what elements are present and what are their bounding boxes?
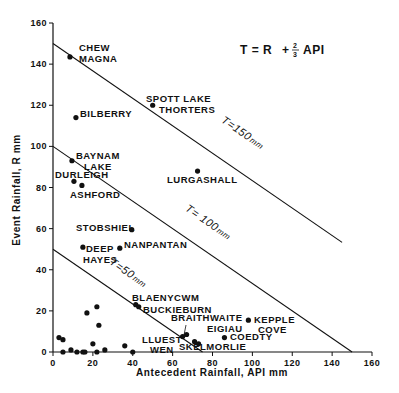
data-point bbox=[69, 158, 74, 163]
formula-numerator: 2 bbox=[293, 42, 297, 49]
data-point bbox=[195, 168, 200, 173]
formula-left: T = R bbox=[240, 43, 272, 57]
data-point bbox=[90, 341, 95, 346]
point-label: BILBERRY bbox=[80, 108, 132, 119]
y-tick-label: 80 bbox=[36, 183, 47, 193]
data-point bbox=[117, 246, 122, 251]
point-label: COVE bbox=[258, 324, 287, 335]
point-label: WEN bbox=[150, 344, 174, 355]
chart-svg: 0204060801001201401600204060801001201401… bbox=[0, 0, 399, 393]
point-label: DEEP bbox=[86, 243, 114, 254]
y-tick-label: 20 bbox=[36, 306, 47, 316]
data-point bbox=[82, 349, 87, 354]
y-tick-label: 0 bbox=[41, 347, 47, 357]
formula-right: API bbox=[303, 43, 325, 57]
data-point bbox=[79, 183, 84, 188]
data-point bbox=[96, 323, 101, 328]
x-tick-label: 0 bbox=[50, 358, 56, 368]
point-label: NANPANTAN bbox=[124, 239, 187, 250]
x-tick-label: 20 bbox=[87, 358, 98, 368]
data-point bbox=[80, 245, 85, 250]
scatter-chart: 0204060801001201401600204060801001201401… bbox=[0, 0, 399, 393]
point-label: THORTERS bbox=[159, 104, 215, 115]
point-label: CHEW bbox=[79, 42, 110, 53]
data-point bbox=[130, 349, 135, 354]
y-tick-label: 140 bbox=[30, 59, 47, 69]
data-point bbox=[60, 337, 65, 342]
point-label: BLAENYCWM bbox=[132, 292, 199, 303]
x-axis-label: Antecedent Rainfall, API mm bbox=[136, 367, 288, 378]
point-label: ASHFORD bbox=[70, 189, 120, 200]
data-point bbox=[136, 304, 141, 309]
reference-line-label: T=150mm bbox=[219, 113, 266, 151]
y-tick-label: 60 bbox=[36, 224, 47, 234]
data-point bbox=[94, 304, 99, 309]
point-label: BRAITHWAITE bbox=[171, 312, 242, 323]
point-label: SKELMORLIE bbox=[179, 341, 246, 352]
formula-denominator: 3 bbox=[293, 51, 297, 58]
data-point bbox=[67, 54, 72, 59]
data-point bbox=[84, 310, 89, 315]
y-tick-label: 160 bbox=[30, 18, 47, 28]
y-axis-label: Event Rainfall, R mm bbox=[11, 134, 22, 245]
data-point bbox=[102, 347, 107, 352]
x-tick-label: 140 bbox=[324, 358, 341, 368]
data-point bbox=[74, 349, 79, 354]
data-point bbox=[94, 349, 99, 354]
y-tick-label: 120 bbox=[30, 100, 47, 110]
point-label: LURGASHALL bbox=[167, 174, 237, 185]
y-tick-label: 100 bbox=[30, 141, 47, 151]
point-label: SPOTT LAKE bbox=[146, 93, 211, 104]
point-label: MAGNA bbox=[79, 53, 117, 64]
point-label: BAYNAM bbox=[76, 150, 120, 161]
data-point bbox=[222, 335, 227, 340]
point-label: DURLEIGH bbox=[55, 169, 109, 180]
point-label: STOBSHIEL bbox=[76, 222, 135, 233]
point-label: HAYES bbox=[83, 254, 117, 265]
data-point bbox=[246, 318, 251, 323]
data-point bbox=[73, 115, 78, 120]
reference-line-label: T= 100mm bbox=[183, 202, 233, 242]
y-tick-label: 40 bbox=[36, 265, 47, 275]
x-tick-label: 160 bbox=[364, 358, 381, 368]
data-point bbox=[60, 349, 65, 354]
point-labels: CHEWMAGNABILBERRYSPOTT LAKETHORTERSBAYNA… bbox=[55, 42, 295, 355]
formula-legend: T = R + 2 3 API bbox=[240, 42, 325, 58]
data-point bbox=[122, 343, 127, 348]
formula-plus: + bbox=[282, 43, 290, 57]
data-point bbox=[68, 347, 73, 352]
